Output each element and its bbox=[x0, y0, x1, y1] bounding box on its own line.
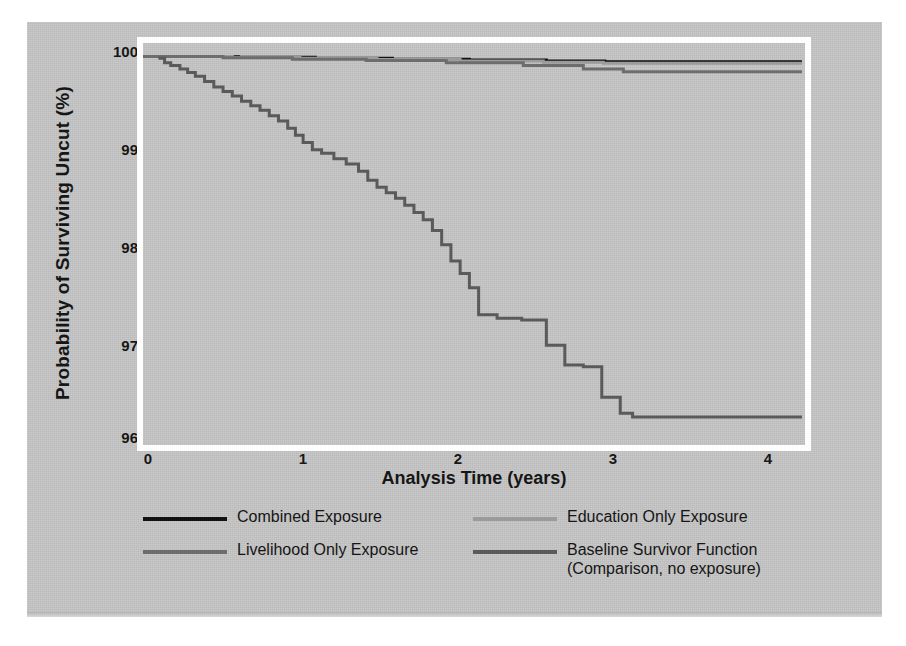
legend-label-wrap: Baseline Survivor Function (Comparison, … bbox=[567, 541, 761, 579]
legend-label: Combined Exposure bbox=[237, 508, 382, 527]
legend-item-education-only-exposure: Education Only Exposure bbox=[473, 508, 833, 527]
legend-label: Education Only Exposure bbox=[567, 508, 748, 527]
series-line-baseline-survivor-function bbox=[158, 58, 802, 417]
y-tick-label: 97 bbox=[104, 338, 138, 353]
legend-sublabel: (Comparison, no exposure) bbox=[567, 560, 761, 579]
plot-area bbox=[143, 43, 805, 451]
legend-swatch-line-icon bbox=[143, 550, 227, 554]
legend-label: Baseline Survivor Function bbox=[567, 541, 757, 558]
figure-panel-shadow bbox=[27, 612, 882, 617]
y-tick-label: 99 bbox=[104, 142, 138, 157]
survival-curves-svg bbox=[143, 43, 805, 451]
x-tick-label: 1 bbox=[288, 450, 318, 467]
legend-item-livelihood-only-exposure: Livelihood Only Exposure bbox=[143, 541, 473, 560]
figure-root: Probability of Surviving Uncut (%) 100 9… bbox=[0, 0, 906, 646]
legend-row: Combined Exposure Education Only Exposur… bbox=[143, 508, 843, 527]
legend-swatch-line-icon bbox=[143, 517, 227, 521]
y-tick-label: 98 bbox=[104, 240, 138, 255]
y-axis-title: Probability of Surviving Uncut (%) bbox=[52, 48, 74, 438]
legend-item-baseline-survivor-function: Baseline Survivor Function (Comparison, … bbox=[473, 541, 833, 579]
x-tick-label: 3 bbox=[598, 450, 628, 467]
legend-label: Livelihood Only Exposure bbox=[237, 541, 418, 560]
x-tick-label: 2 bbox=[443, 450, 473, 467]
legend-swatch-line-icon bbox=[473, 550, 557, 554]
x-tick-label: 0 bbox=[133, 450, 163, 467]
legend-row: Livelihood Only Exposure Baseline Surviv… bbox=[143, 541, 843, 579]
legend-item-combined-exposure: Combined Exposure bbox=[143, 508, 473, 527]
legend-swatch-line-icon bbox=[473, 517, 557, 521]
chart-legend: Combined Exposure Education Only Exposur… bbox=[143, 508, 843, 593]
y-tick-label: 96 bbox=[104, 430, 138, 445]
y-axis-tick-labels: 100 99 98 97 96 bbox=[98, 0, 138, 460]
x-axis-title: Analysis Time (years) bbox=[143, 468, 805, 489]
x-tick-label: 4 bbox=[753, 450, 783, 467]
y-tick-label: 100 bbox=[104, 44, 138, 59]
